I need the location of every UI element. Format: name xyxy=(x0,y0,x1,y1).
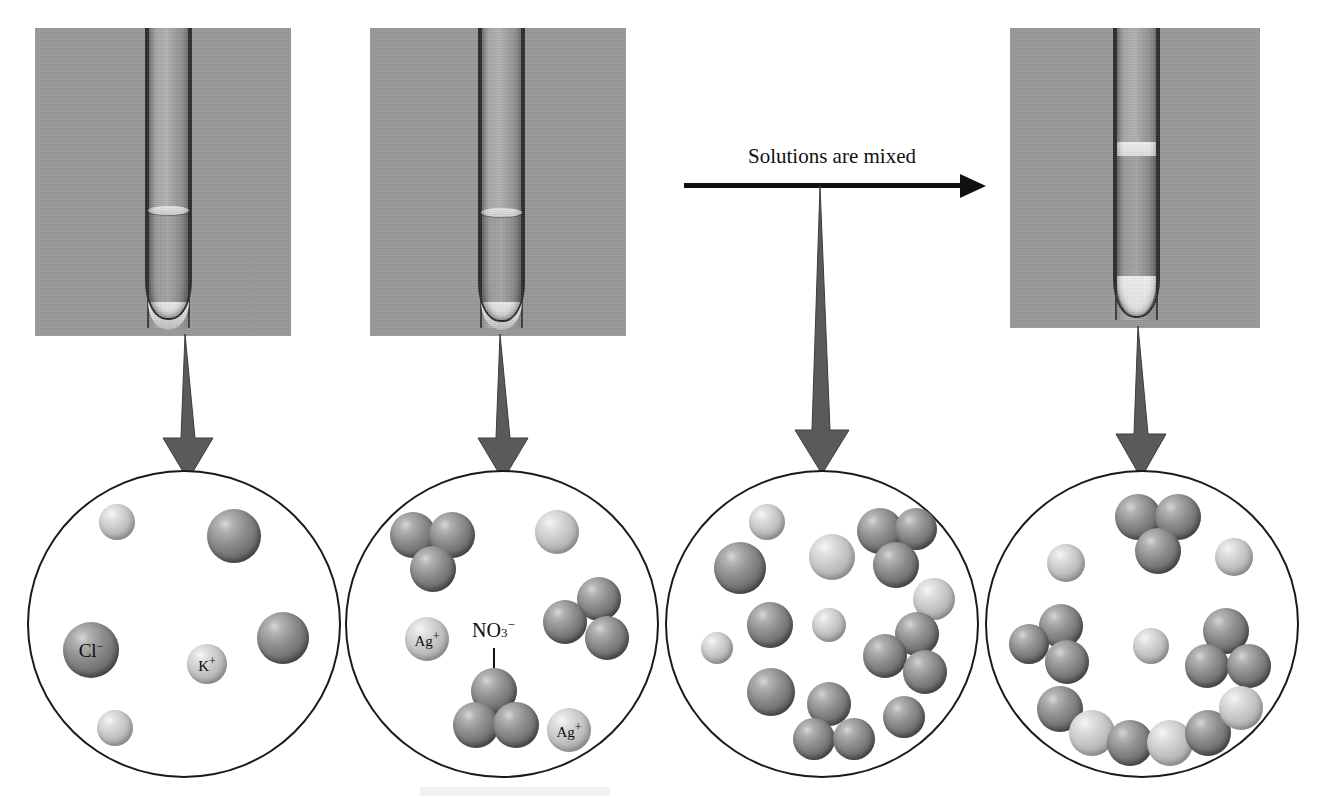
nitrate-nitrogen xyxy=(410,546,456,592)
mix-arrow-label: Solutions are mixed xyxy=(748,144,916,169)
silver-ion-label: Ag+ xyxy=(405,630,449,649)
zoom-arrow-kcl xyxy=(155,334,221,480)
precipitate-particle xyxy=(1219,686,1263,730)
silver-ion xyxy=(812,608,846,642)
nitrate-callout-label: NO3− xyxy=(472,617,515,642)
magnified-view-mixed-solutions xyxy=(665,470,979,778)
nitrate-oxygen xyxy=(1045,640,1089,684)
figure-canvas: Solutions are mixed Cl− xyxy=(0,0,1344,799)
potassium-ion xyxy=(99,504,135,540)
nitrate-oxygen xyxy=(793,718,835,760)
nitrate-oxygen xyxy=(1185,644,1229,688)
nitrate-oxygen xyxy=(1227,644,1271,688)
chloride-ion xyxy=(714,542,766,594)
silver-ion-labeled: Ag+ xyxy=(547,708,591,752)
nitrate-nitrogen xyxy=(1135,528,1181,574)
nitrate-oxygen xyxy=(1009,624,1049,664)
nitrate-oxygen xyxy=(833,718,875,760)
magnified-view-agno3: Ag+ NO3− Ag+ xyxy=(345,470,659,778)
nitrate-nitrogen xyxy=(863,634,907,678)
potassium-ion xyxy=(97,710,133,746)
zoom-arrow-precipitate xyxy=(1108,326,1174,478)
tube-outer-wall xyxy=(145,28,192,320)
silver-ion-labeled: Ag+ xyxy=(405,617,449,661)
potassium-ion xyxy=(1047,544,1085,582)
silver-ion xyxy=(809,534,855,580)
nitrate-oxygen xyxy=(903,650,947,694)
nitrate-oxygen xyxy=(493,702,539,748)
chloride-ion-label: Cl− xyxy=(63,640,119,660)
zoom-arrow-agno3 xyxy=(470,334,536,480)
potassium-ion-label: K+ xyxy=(187,655,227,674)
chloride-ion xyxy=(883,696,925,738)
mix-arrow-head-icon xyxy=(960,174,986,198)
nitrate-nitrogen xyxy=(873,542,919,588)
tube-outer-wall xyxy=(478,28,525,322)
potassium-ion xyxy=(1133,628,1169,664)
zoom-arrow-mixed xyxy=(787,186,857,474)
potassium-ion-labeled: K+ xyxy=(187,644,227,684)
silver-ion-label: Ag+ xyxy=(547,721,591,740)
potassium-ion xyxy=(1215,538,1253,576)
magnified-view-precipitate xyxy=(985,470,1299,778)
photo-panel-agno3 xyxy=(370,28,626,336)
chloride-ion xyxy=(257,612,309,664)
nitrate-nitrogen xyxy=(543,600,587,644)
photo-panel-precipitate xyxy=(1010,28,1260,328)
photo-panel-kcl xyxy=(35,28,291,336)
scan-artifact-strip xyxy=(420,787,610,796)
silver-ion xyxy=(749,504,785,540)
silver-ion xyxy=(701,632,733,664)
chloride-ion xyxy=(207,509,261,563)
chloride-ion xyxy=(747,668,795,716)
nitrate-oxygen xyxy=(585,616,629,660)
magnified-view-kcl: Cl− K+ xyxy=(27,470,341,778)
silver-ion xyxy=(535,510,579,554)
tube-outer-wall xyxy=(1113,28,1160,318)
chloride-ion xyxy=(747,602,793,648)
chloride-ion-labeled: Cl− xyxy=(63,622,119,678)
